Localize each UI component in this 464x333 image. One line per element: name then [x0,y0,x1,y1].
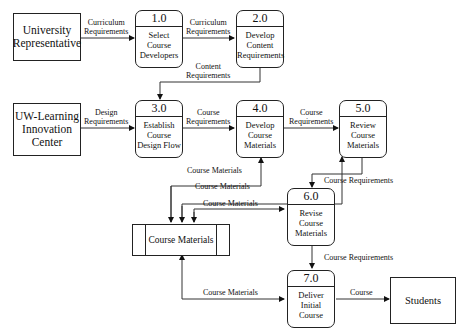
entity-university-representative: UniversityRepresentative [13,13,81,61]
flow-label-curriculum-req-2: CurriculumRequirements [186,18,230,36]
flow-label-design-req: DesignRequirements [84,108,128,126]
flow-label-course-req-5-6: Course Requirements [324,176,393,185]
entity-label: Center [15,136,79,149]
process-number: 1.0 [136,11,182,27]
flow-label-course-materials-7: Course Materials [203,288,258,297]
process-label: Deliver [288,290,334,300]
process-number: 7.0 [288,271,334,287]
process-label: Develop [237,30,283,40]
process-label: Materials [237,140,283,150]
process-label: Requirements [237,50,283,60]
process-label: Revise [288,208,334,218]
process-5-0: 5.0 ReviewCourseMaterials [339,100,387,158]
flow-label-course: Course [350,288,373,297]
process-6-0: 6.0 ReviseCourseMaterials [287,188,335,246]
process-label: Course [136,40,182,50]
process-4-0: 4.0 DevelopCourseMaterials [236,100,284,158]
entity-label: Students [405,294,441,307]
flow-label-course-materials-4: Course Materials [187,166,242,175]
data-store-course-materials: Course Materials [132,224,230,256]
entity-label: University [13,24,81,37]
process-label: Course [237,130,283,140]
process-label: Developers [136,50,182,60]
process-label: Develop [237,120,283,130]
process-number: 5.0 [340,101,386,117]
entity-label: Representative [13,37,81,50]
entity-students: Students [390,277,456,324]
process-label: Review [340,120,386,130]
process-label: Establish [136,120,182,130]
flow-label-course-req-6-7: Course Requirements [324,253,393,262]
process-label: Course [288,218,334,228]
process-number: 2.0 [237,11,283,27]
flow-label-course-req-4-5: CourseRequirements [289,108,333,126]
flow-label-curriculum-req-1: CurriculumRequirements [84,18,128,36]
process-label: Materials [340,140,386,150]
process-number: 4.0 [237,101,283,117]
data-store-label: Course Materials [148,235,213,245]
flow-label-content-req: ContentRequirements [186,62,230,80]
process-label: Materials [288,228,334,238]
flow-label-course-req-3-4: CourseRequirements [186,108,230,126]
process-number: 3.0 [136,101,182,117]
process-label: Select [136,30,182,40]
flow-label-course-materials-5: Course Materials [195,182,250,191]
process-7-0: 7.0 DeliverInitialCourse [287,270,335,328]
process-label: Course [340,130,386,140]
process-1-0: 1.0 SelectCourseDevelopers [135,10,183,68]
entity-label: UW-Learning [15,110,79,123]
process-label: Initial [288,300,334,310]
entity-label: Innovation [15,123,79,136]
process-label: Content [237,40,283,50]
process-label: Design Flow [136,140,182,150]
process-2-0: 2.0 DevelopContentRequirements [236,10,284,68]
entity-uw-learning-innovation-center: UW-LearningInnovationCenter [13,103,81,156]
process-number: 6.0 [288,189,334,205]
process-label: Course [288,310,334,320]
process-3-0: 3.0 EstablishCourseDesign Flow [135,100,183,158]
process-label: Course [136,130,182,140]
flow-label-course-materials-6: Course Materials [203,199,258,208]
